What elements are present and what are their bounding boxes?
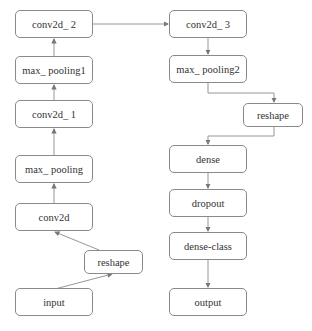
node-label: conv2d_ 3 bbox=[186, 19, 230, 30]
edge-input-reshape bbox=[55, 274, 112, 289]
node-output: output bbox=[169, 288, 247, 316]
node-label: max_ pooling1 bbox=[22, 65, 85, 76]
node-label: max_ pooling bbox=[25, 164, 83, 175]
network-diagram: conv2d_ 2 max_ pooling1 conv2d_ 1 max_ p… bbox=[0, 0, 312, 331]
node-label: reshape bbox=[257, 110, 289, 121]
node-label: dense-class bbox=[184, 241, 232, 252]
node-label: dense bbox=[196, 154, 220, 165]
edge-reshape-conv2d bbox=[55, 232, 99, 250]
node-label: conv2d_ 1 bbox=[32, 109, 76, 120]
node-label: conv2d_ 2 bbox=[32, 19, 76, 30]
node-label: output bbox=[195, 297, 222, 308]
node-label: input bbox=[43, 297, 65, 308]
node-dense-class: dense-class bbox=[169, 232, 247, 260]
node-max-pooling1: max_ pooling1 bbox=[15, 56, 93, 84]
node-max-pooling2: max_ pooling2 bbox=[169, 55, 247, 83]
edge-reshape-dense bbox=[208, 127, 274, 144]
node-reshape-left: reshape bbox=[84, 250, 143, 274]
node-reshape-right: reshape bbox=[243, 103, 303, 127]
edge-maxpooling2-reshape bbox=[208, 83, 274, 102]
node-label: conv2d bbox=[39, 212, 70, 223]
node-input: input bbox=[15, 288, 93, 316]
node-max-pooling: max_ pooling bbox=[15, 155, 93, 183]
node-conv2d: conv2d bbox=[15, 203, 93, 231]
node-dropout: dropout bbox=[169, 189, 247, 217]
node-dense: dense bbox=[169, 145, 247, 173]
node-label: dropout bbox=[192, 198, 225, 209]
node-conv2d-1: conv2d_ 1 bbox=[15, 100, 93, 128]
node-label: reshape bbox=[97, 257, 129, 268]
node-conv2d-3: conv2d_ 3 bbox=[169, 10, 247, 38]
node-label: max_ pooling2 bbox=[176, 64, 239, 75]
node-conv2d-2: conv2d_ 2 bbox=[15, 10, 93, 38]
